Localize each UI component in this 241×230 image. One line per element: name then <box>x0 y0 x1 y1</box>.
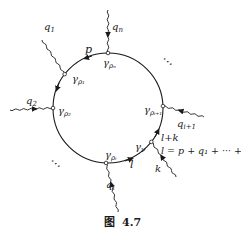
vertex-gamma-rho-1 <box>63 72 67 76</box>
external-label-q-i: qi <box>106 179 115 192</box>
vertex-label-gamma-rho-n: γρₙ <box>103 57 116 70</box>
photon-line-q-1 <box>42 40 65 74</box>
vertex-label-gamma-rho-i1: γρᵢ₊₁ <box>144 104 162 117</box>
vertex-label-gamma-nu: γν <box>135 141 146 154</box>
arrow-lk <box>155 131 158 137</box>
vertex-label-gamma-rho-2: γρ₂ <box>58 105 71 118</box>
momentum-l-plus-k: l+k <box>161 132 179 143</box>
vertex-gamma-rho-i1 <box>161 104 165 108</box>
photon-line-q-n <box>107 10 109 53</box>
feynman-loop-diagram: p l l+k l = p + q₁ + ··· + qᵢ ⋯ ⋯ γρₙqnγ… <box>0 0 241 230</box>
external-label-q-n: qn <box>112 21 123 34</box>
vertex-label-gamma-rho-i: γρᵢ <box>105 149 117 162</box>
vertex-gamma-rho-n <box>106 51 110 55</box>
external-label-q-2: q2 <box>26 95 37 108</box>
vertex-gamma-nu <box>150 140 154 144</box>
vertex-gamma-rho-i <box>104 161 108 165</box>
momentum-l: l <box>130 158 134 171</box>
vertex-label-gamma-rho-1: γρ₁ <box>72 73 85 86</box>
external-label-k: k <box>155 163 161 174</box>
equation: l = p + q₁ + ··· + qᵢ <box>161 145 241 156</box>
arrow-k <box>162 157 164 159</box>
momentum-p: p <box>85 43 92 56</box>
photon-line-q-i1 <box>163 106 204 117</box>
ellipsis-bottom-left: ⋯ <box>46 153 64 171</box>
external-label-q-i1: qi+1 <box>177 118 196 131</box>
vertex-gamma-rho-2 <box>51 106 55 110</box>
caption-prefix: 图 <box>104 216 115 229</box>
ellipsis-top-right: ⋯ <box>158 51 176 69</box>
external-label-q-1: q1 <box>44 21 55 34</box>
caption-number: 4.7 <box>122 216 141 229</box>
arrow-q-i1 <box>180 111 183 112</box>
